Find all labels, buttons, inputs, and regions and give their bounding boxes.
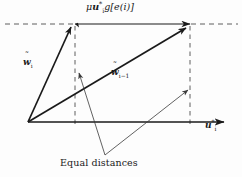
- vector-w-i: [28, 27, 71, 122]
- u-axis-subscript: i: [215, 125, 217, 132]
- w-i-base-host: ˜w: [23, 58, 31, 67]
- w-i-1-base-host: ˜w: [111, 68, 119, 77]
- w-i-subscript: i: [31, 62, 33, 69]
- update-term-label: μu*ig[e(i)]: [86, 2, 134, 12]
- equal-distances-caption: Equal distances: [60, 158, 138, 168]
- vector-w-i-minus-1: [28, 28, 186, 122]
- w-i-1-tilde-accent: ˜: [113, 62, 117, 71]
- u-star-superscript: *: [99, 0, 102, 7]
- vector-w-i-minus-1-label: ˜wi−1: [111, 68, 129, 77]
- vector-diagram-figure: μu*ig[e(i)] ˜wi ˜wi−1 u*i Equal distance…: [0, 0, 242, 177]
- vector-w-i-label: ˜wi: [23, 58, 33, 67]
- diagram-canvas: [0, 0, 242, 177]
- leader-line-left: [79, 73, 105, 155]
- w-i-1-subscript: i−1: [119, 72, 130, 79]
- w-i-tilde-accent: ˜: [25, 52, 29, 61]
- u-axis-label: u*i: [205, 121, 216, 130]
- bracket-close: ]: [130, 1, 134, 12]
